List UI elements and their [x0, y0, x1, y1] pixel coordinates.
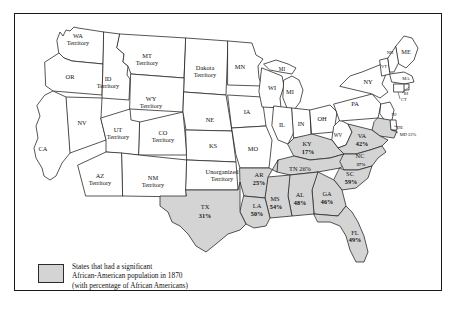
legend-text: States that had a significant African-Am… — [72, 262, 188, 290]
state-shape-nm[interactable] — [122, 153, 187, 197]
state-label-ct: CT — [401, 97, 407, 102]
state-shape-wi[interactable] — [259, 68, 284, 108]
map-legend: States that had a significant African-Am… — [38, 262, 188, 290]
state-shape-nv[interactable] — [66, 97, 106, 153]
state-shape-ks[interactable] — [186, 130, 236, 162]
legend-line-3: (with percentage of African Americans) — [72, 281, 188, 290]
state-shape-fl[interactable] — [314, 206, 368, 262]
state-shape-co[interactable] — [139, 112, 187, 155]
state-shape-ma[interactable] — [390, 72, 414, 84]
state-shape-dak[interactable] — [184, 38, 228, 95]
state-label-de: DE — [397, 125, 403, 130]
leader-line-ct — [398, 92, 400, 99]
state-shape-mo[interactable] — [232, 126, 272, 168]
state-shape-ut[interactable] — [101, 109, 140, 155]
state-shape-me[interactable] — [396, 36, 418, 68]
state-shape-ct[interactable] — [394, 84, 404, 92]
state-shape-mn[interactable] — [228, 41, 263, 86]
state-shape-il[interactable] — [272, 106, 294, 144]
state-shape-ne[interactable] — [183, 92, 232, 131]
state-label-ri: RI — [404, 91, 409, 96]
state-shape-wy[interactable] — [130, 74, 184, 112]
state-shape-sc[interactable] — [334, 166, 372, 190]
state-shape-in[interactable] — [292, 108, 311, 138]
state-shape-oh[interactable] — [310, 105, 337, 134]
state-shape-pa[interactable] — [334, 94, 381, 121]
legend-line-1: States that had a significant — [72, 262, 188, 271]
legend-swatch-shaded — [38, 264, 64, 283]
state-label-md: MD 22% — [400, 132, 417, 137]
legend-line-2: African-American population in 1870 — [72, 271, 188, 280]
leader-lines-layer — [392, 87, 409, 133]
state-shape-unorganized[interactable] — [186, 160, 238, 190]
state-shape-ms[interactable] — [265, 175, 292, 218]
state-shape-ca[interactable] — [34, 91, 70, 180]
map-figure: WATerritoryORIDTerritoryMTTerritoryDakot… — [0, 0, 456, 311]
state-shape-mi-lower[interactable] — [283, 76, 303, 110]
state-shapes-layer — [34, 27, 418, 262]
state-shape-az[interactable] — [78, 152, 123, 196]
